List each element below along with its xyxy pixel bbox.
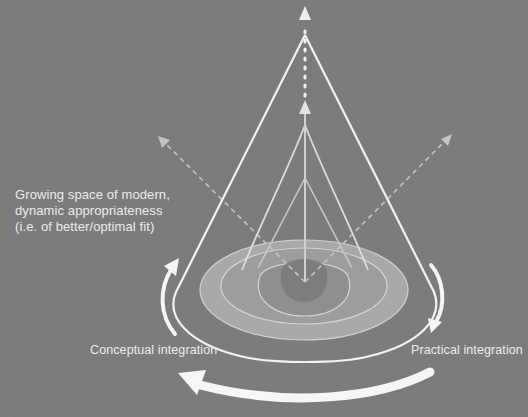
growing-space-label: Growing space of modern, dynamic appropr… <box>15 187 170 235</box>
conceptual-integration-label: Conceptual integration <box>90 343 217 358</box>
growing-space-line-1: Growing space of modern, <box>15 187 170 203</box>
growing-space-line-3: (i.e. of better/optimal fit) <box>15 219 170 235</box>
practical-integration-label: Practical integration <box>411 343 523 358</box>
growing-space-line-2: dynamic appropriateness <box>15 203 170 219</box>
